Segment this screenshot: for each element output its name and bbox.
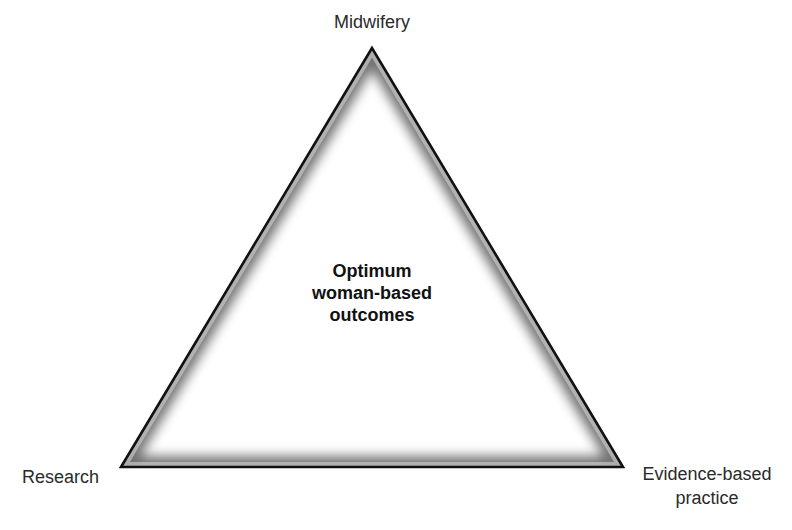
center-label-line-3: outcomes xyxy=(272,304,472,326)
center-label-outcomes: Optimum woman-based outcomes xyxy=(272,260,472,326)
triangle-fill xyxy=(121,48,623,467)
vertex-label-midwifery: Midwifery xyxy=(322,11,422,33)
vertex-label-line-2: practice xyxy=(632,486,782,510)
vertex-label-line-1: Evidence-based xyxy=(632,462,782,486)
vertex-label-research: Research xyxy=(22,466,99,488)
center-label-line-2: woman-based xyxy=(272,282,472,304)
vertex-label-evidence-based-practice: Evidence-based practice xyxy=(632,462,782,510)
center-label-line-1: Optimum xyxy=(272,260,472,282)
